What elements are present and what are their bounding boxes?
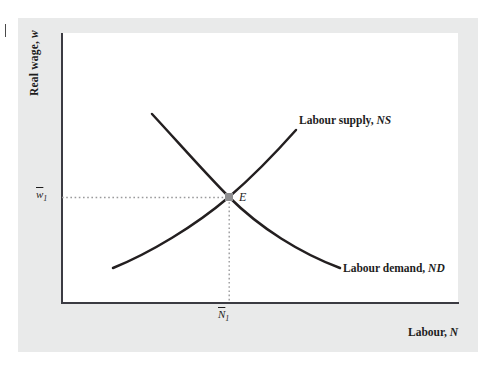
wage-tick-label: w1 — [36, 188, 47, 203]
page-margin-tick — [5, 24, 6, 37]
labour-demand-label-symbol: ND — [428, 262, 445, 274]
labour-demand-label: Labour demand, ND — [343, 262, 445, 274]
labour-supply-label-text: Labour supply, — [299, 114, 376, 126]
x-axis-title-symbol: N — [450, 326, 458, 338]
x-axis-title: Labour, N — [408, 326, 458, 338]
x-axis-title-text: Labour, — [408, 326, 450, 338]
y-axis-line — [61, 33, 63, 304]
y-axis-title-symbol: w — [28, 30, 40, 38]
y-axis-title: Real wage, w — [28, 3, 40, 123]
labour-supply-label-symbol: NS — [376, 114, 391, 126]
labour-tick-label: N1 — [218, 308, 229, 323]
labour-supply-label: Labour supply, NS — [299, 114, 391, 126]
equilibrium-point-marker — [225, 193, 233, 201]
labour-tick-subscript: 1 — [225, 314, 229, 323]
equilibrium-point-label: E — [239, 190, 246, 205]
x-axis-line — [61, 302, 459, 304]
labour-demand-label-text: Labour demand, — [343, 262, 428, 274]
y-axis-title-text: Real wage, — [28, 38, 40, 96]
wage-tick-subscript: 1 — [43, 194, 47, 203]
